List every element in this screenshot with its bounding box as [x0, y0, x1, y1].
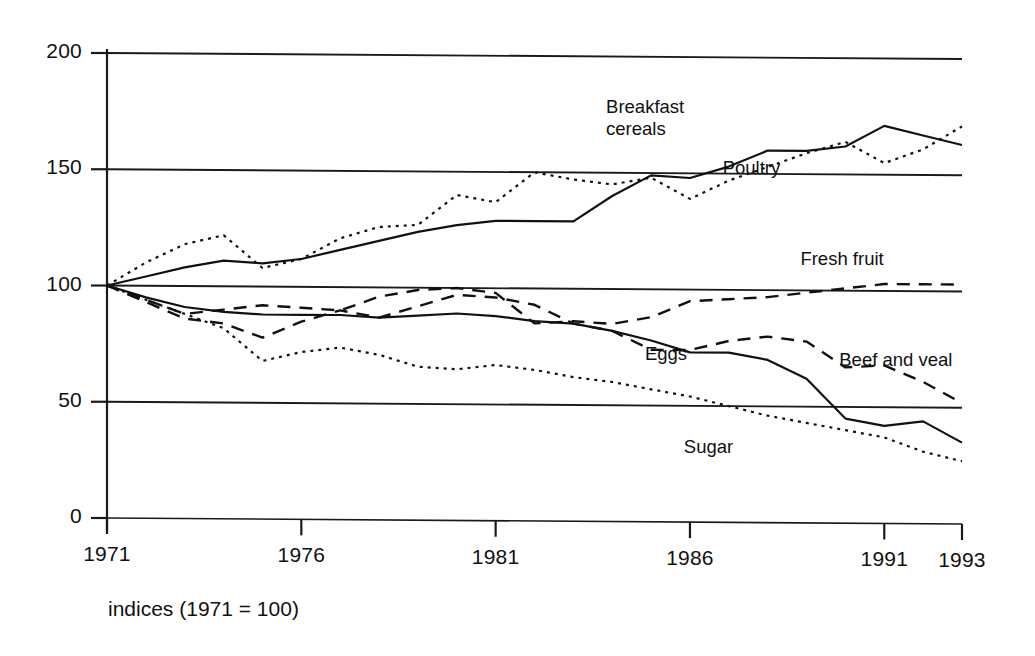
annotation-eggs: Eggs [645, 343, 687, 365]
x-tick-label-1976: 1976 [266, 543, 336, 567]
annotation-sugar: Sugar [684, 436, 733, 458]
annotation-breakfast-cereals: Breakfast cereals [606, 96, 684, 140]
chart-caption: indices (1971 = 100) [108, 597, 299, 621]
annotation-poultry: Poultry [723, 157, 781, 179]
y-tick-label-50: 50 [20, 388, 82, 412]
annotation-fresh-fruit: Fresh fruit [800, 248, 883, 270]
series-lines [107, 126, 962, 461]
series-line-beef-and-veal [107, 286, 962, 404]
y-tick-label-200: 200 [20, 39, 82, 63]
y-tick-label-100: 100 [20, 272, 82, 296]
gridline-150 [107, 169, 962, 175]
x-tick-label-1993: 1993 [927, 548, 997, 572]
y-tick-label-0: 0 [20, 504, 82, 528]
y-axis [91, 49, 107, 532]
annotation-beef-and-veal: Beef and veal [839, 349, 952, 371]
x-tick-label-1986: 1986 [655, 546, 725, 570]
chart-page: 050100150200 197119761981198619911993 Br… [0, 0, 1035, 656]
x-tick-label-1971: 1971 [72, 542, 142, 566]
x-tick-label-1981: 1981 [461, 545, 531, 569]
gridline-0 [107, 518, 962, 524]
gridline-200 [107, 53, 962, 59]
x-tick-label-1991: 1991 [849, 547, 919, 571]
y-tick-label-150: 150 [20, 155, 82, 179]
